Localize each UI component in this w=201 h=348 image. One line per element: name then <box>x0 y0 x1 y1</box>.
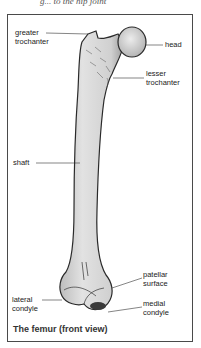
femoral-head-shape <box>118 27 146 57</box>
label-lateral-condyle: lateral condyle <box>12 296 38 313</box>
label-patellar-surface: patellar surface <box>143 271 168 288</box>
label-lesser-trochanter: lesser trochanter <box>146 70 180 87</box>
label-head: head <box>165 41 182 50</box>
femur-bone-shape <box>60 31 124 310</box>
label-shaft: shaft <box>13 159 29 168</box>
diagram-title: The femur (front view) <box>13 324 108 334</box>
label-medial-condyle: medial condyle <box>143 300 169 317</box>
label-greater-trochanter: greater trochanter <box>15 29 49 46</box>
